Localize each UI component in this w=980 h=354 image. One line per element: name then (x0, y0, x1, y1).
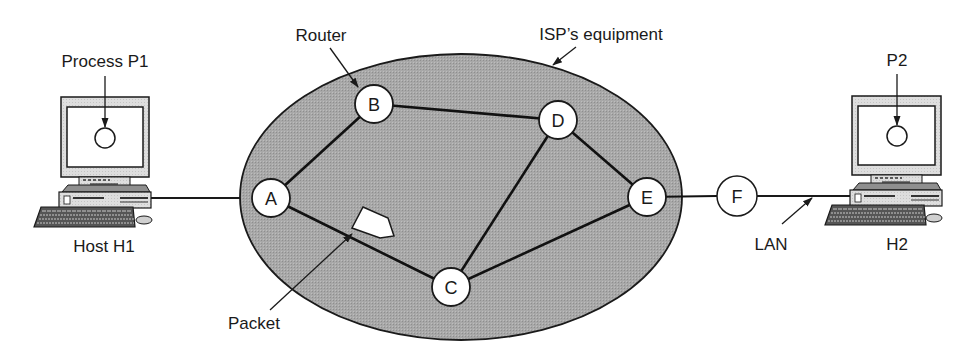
node-label-e: E (641, 188, 653, 208)
host-h1: Process P1 (34, 52, 152, 256)
node-label-a: A (265, 189, 277, 209)
router-f: F (717, 176, 757, 216)
isp-equipment-label: ISP’s equipment (539, 25, 663, 44)
lan-label: LAN (754, 235, 787, 254)
router-a: A (252, 179, 290, 217)
isp-pointer-arrow (553, 47, 576, 65)
network-diagram: A B C D E F Router ISP’s equipment Packe… (0, 0, 980, 354)
process-p1-circle (95, 128, 115, 148)
router-c: C (432, 268, 470, 306)
process-p2-circle (887, 126, 907, 146)
router-b: B (355, 85, 393, 123)
host-h1-label: Host H1 (73, 237, 134, 256)
p2-label: P2 (887, 51, 908, 70)
node-label-b: B (368, 95, 380, 115)
process-p1-label: Process P1 (62, 52, 149, 71)
computer-icon (34, 97, 152, 227)
node-label-d: D (552, 111, 565, 131)
router-label: Router (295, 26, 346, 45)
computer-icon (825, 96, 942, 225)
router-d: D (539, 101, 577, 139)
host-h2-label: H2 (886, 235, 908, 254)
node-label-c: C (445, 278, 458, 298)
packet-label: Packet (228, 314, 280, 333)
router-e: E (628, 178, 666, 216)
host-h2: P2 H2 (825, 51, 942, 254)
node-label-f: F (732, 187, 743, 207)
lan-pointer-arrow (782, 198, 812, 224)
